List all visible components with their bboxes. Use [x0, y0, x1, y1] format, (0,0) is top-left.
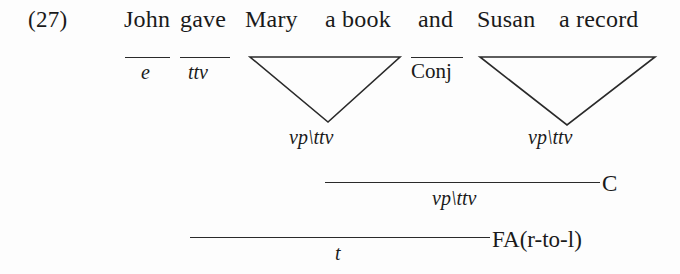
derivation-rule-label-fa: FA(r-to-l): [492, 228, 582, 251]
triangle-label-vp-ttv-left: vp\ttv: [289, 127, 333, 147]
ccg-derivation-figure: (27) John gave Mary a book and Susan a r…: [0, 0, 680, 274]
surface-word-mary: Mary: [245, 7, 298, 31]
surface-word-a-record: a record: [559, 7, 639, 31]
surface-word-a-book: a book: [325, 7, 391, 31]
surface-word-susan: Susan: [477, 7, 535, 31]
derivation-line-function-application: [190, 237, 490, 238]
triangle-label-vp-ttv-right: vp\ttv: [528, 127, 572, 147]
example-number: (27): [28, 8, 68, 31]
category-rule-line-e: [125, 57, 170, 58]
surface-word-and: and: [418, 7, 453, 31]
derivation-category-coordination: vp\ttv: [432, 188, 476, 208]
derivation-line-coordination: [325, 182, 600, 183]
category-rule-line-ttv: [180, 57, 230, 58]
category-label-e: e: [141, 62, 150, 82]
derivation-rule-label-c: C: [602, 172, 617, 195]
category-label-ttv: ttv: [188, 62, 208, 82]
triangle-susan-a-record: [480, 57, 655, 125]
surface-word-john: John: [124, 7, 170, 31]
category-rule-line-conj: [411, 57, 463, 58]
derivation-category-t: t: [335, 243, 341, 263]
triangle-mary-a-book: [250, 57, 400, 122]
category-label-conj: Conj: [411, 61, 452, 82]
surface-word-gave: gave: [180, 7, 226, 31]
